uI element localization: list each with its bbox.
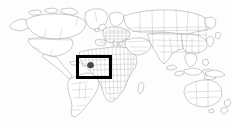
continent-asia — [124, 10, 221, 80]
world-map-svg — [0, 0, 232, 128]
continent-south-america — [68, 73, 99, 117]
world-locator-map — [0, 0, 232, 128]
region-highlight-rectangle — [76, 55, 112, 79]
